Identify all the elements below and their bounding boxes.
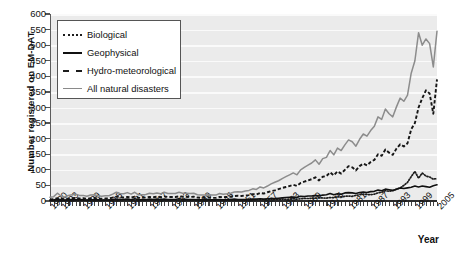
y-axis-tick-label: 150 <box>12 149 46 159</box>
legend-swatch-dashed-icon <box>63 66 82 76</box>
y-axis-tick-label: 400 <box>12 71 46 81</box>
y-axis-tick-label: 0 <box>12 196 46 206</box>
y-axis-tick-label: 250 <box>12 118 46 128</box>
y-axis-tick-label: 50 <box>12 180 46 190</box>
legend-swatch-solid-black-icon <box>63 48 82 58</box>
legend-label-biological: Biological <box>87 30 127 40</box>
chart-legend: Biological Geophysical Hydro-meteorologi… <box>57 20 181 99</box>
x-axis-tick <box>76 202 77 206</box>
x-axis-tick <box>408 202 409 206</box>
x-axis-tick <box>341 202 342 206</box>
x-axis-tick <box>142 202 143 206</box>
y-axis-tick-label: 350 <box>12 87 46 97</box>
x-axis-tick <box>146 202 147 206</box>
y-axis-tick-label: 550 <box>12 25 46 35</box>
y-axis-tick-label: 100 <box>12 165 46 175</box>
x-axis-tick <box>297 202 298 206</box>
x-axis-tick <box>367 202 368 206</box>
x-axis-tick-label: 2005 <box>436 191 457 212</box>
legend-swatch-dotted-icon <box>63 30 82 40</box>
y-axis-tick-label: 600 <box>12 9 46 19</box>
x-axis-tick <box>253 202 254 206</box>
x-axis-tick <box>120 202 121 206</box>
x-axis-tick <box>208 202 209 206</box>
legend-item-biological: Biological <box>58 26 180 44</box>
x-axis-tick <box>345 202 346 206</box>
x-axis-tick <box>319 202 320 206</box>
legend-item-geophysical: Geophysical <box>58 44 180 62</box>
x-axis-tick <box>212 202 213 206</box>
legend-item-all-natural-disasters: All natural disasters <box>58 80 180 98</box>
legend-swatch-solid-gray-icon <box>63 84 82 94</box>
x-axis-tick <box>231 202 232 206</box>
x-axis-tick <box>190 202 191 206</box>
x-axis-tick <box>98 202 99 206</box>
y-axis-tick-label: 450 <box>12 56 46 66</box>
legend-item-hydro-meteorological: Hydro-meteorological <box>58 62 180 80</box>
x-axis-tick <box>275 202 276 206</box>
x-axis-tick <box>168 202 169 206</box>
legend-label-geophysical: Geophysical <box>87 48 139 58</box>
y-axis-tick-label: 500 <box>12 40 46 50</box>
y-axis-tick-label: 300 <box>12 103 46 113</box>
legend-label-hydro-meteorological: Hydro-meteorological <box>87 66 176 76</box>
x-axis-tick <box>389 202 390 206</box>
x-axis-tick <box>430 202 431 206</box>
y-axis-tick-label: 200 <box>12 134 46 144</box>
x-axis-title: Year <box>418 234 439 245</box>
legend-label-all-natural-disasters: All natural disasters <box>87 84 169 94</box>
